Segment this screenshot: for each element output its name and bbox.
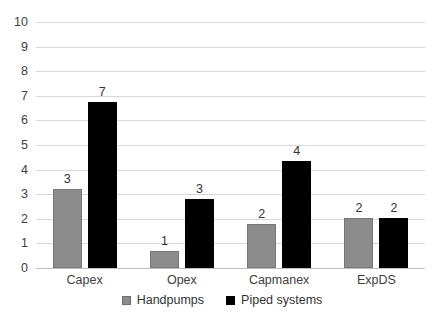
bar-chart: 012345678910 37132422 CapexOpexCapmanexE… (0, 0, 444, 320)
bar-expds-piped-systems (379, 218, 408, 268)
bar-value-label: 1 (150, 235, 179, 248)
bar-opex-piped-systems (185, 199, 214, 268)
bar-value-label: 2 (344, 202, 373, 215)
x-axis-tick-label: ExpDS (328, 274, 425, 287)
x-axis-tick-label: Opex (133, 274, 230, 287)
y-axis-tick-label: 2 (0, 213, 28, 226)
y-axis-tick-label: 4 (0, 163, 28, 176)
legend-item-label: Handpumps (137, 294, 204, 307)
bar-capex-piped-systems (88, 102, 117, 268)
bar-value-label: 2 (247, 208, 276, 221)
y-axis-tick-label: 7 (0, 90, 28, 103)
bar-expds-handpumps (344, 218, 373, 268)
bar-value-label: 3 (185, 183, 214, 196)
y-axis-tick-label: 9 (0, 40, 28, 53)
y-axis-tick-label: 8 (0, 65, 28, 78)
plot-area: 37132422 (36, 22, 425, 268)
x-axis-tick-label: Capex (36, 274, 133, 287)
bar-value-label: 3 (53, 173, 82, 186)
x-axis-tick-label: Capmanex (231, 274, 328, 287)
y-axis-tick-labels: 012345678910 (0, 22, 30, 268)
legend-item-piped[interactable]: Piped systems (226, 294, 322, 307)
bar-value-label: 4 (282, 145, 311, 158)
y-axis-tick-label: 1 (0, 237, 28, 250)
gridline (36, 71, 425, 72)
bar-capmanex-handpumps (247, 224, 276, 268)
y-axis-tick-label: 6 (0, 114, 28, 127)
legend-swatch-icon (122, 296, 131, 305)
axis-baseline (36, 268, 425, 269)
bar-opex-handpumps (150, 251, 179, 268)
y-axis-tick-label: 10 (0, 16, 28, 29)
gridline (36, 47, 425, 48)
legend-item-label: Piped systems (241, 294, 322, 307)
y-axis-tick-label: 3 (0, 188, 28, 201)
bar-capex-handpumps (53, 189, 82, 268)
y-axis-tick-label: 0 (0, 262, 28, 275)
bar-value-label: 7 (88, 86, 117, 99)
gridline (36, 22, 425, 23)
chart-legend: HandpumpsPiped systems (0, 294, 444, 307)
y-axis-tick-label: 5 (0, 139, 28, 152)
bar-capmanex-piped-systems (282, 161, 311, 268)
legend-item-handpumps[interactable]: Handpumps (122, 294, 204, 307)
bar-value-label: 2 (379, 202, 408, 215)
legend-swatch-icon (226, 296, 235, 305)
